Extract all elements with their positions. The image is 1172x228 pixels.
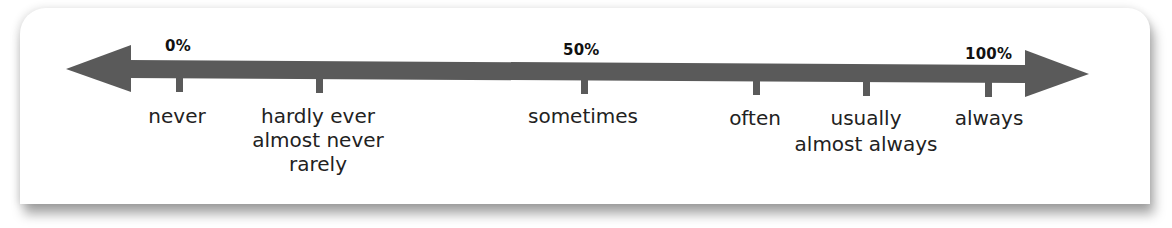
left-arrowhead-icon xyxy=(66,45,131,92)
label-sometimes: sometimes xyxy=(528,104,638,128)
label-line: almost never xyxy=(252,128,384,152)
label-line: almost always xyxy=(795,132,938,156)
label-hardly-ever: hardly ever almost never rarely xyxy=(252,104,384,176)
tick-often xyxy=(753,79,760,95)
tick-never xyxy=(176,76,183,92)
tick-always xyxy=(985,81,992,97)
right-arrowhead-icon xyxy=(1025,50,1089,97)
frequency-scale-figure: 0% 50% 100% never hardly ever almost nev… xyxy=(0,0,1172,228)
label-line: never xyxy=(148,104,205,128)
label-usually: usually almost always xyxy=(795,106,938,156)
tick-sometimes xyxy=(581,78,588,94)
label-often: often xyxy=(729,106,781,130)
label-never: never xyxy=(148,104,205,128)
label-line: often xyxy=(729,106,781,130)
arrow-shaft xyxy=(128,60,1028,83)
label-line: always xyxy=(955,106,1024,130)
label-line: rarely xyxy=(252,152,384,176)
label-line: hardly ever xyxy=(252,104,384,128)
percent-100: 100% xyxy=(965,45,1012,63)
tick-usually xyxy=(863,80,870,96)
label-always: always xyxy=(955,106,1024,130)
label-line: sometimes xyxy=(528,104,638,128)
label-line: usually xyxy=(795,106,938,130)
percent-50: 50% xyxy=(563,41,600,59)
tick-hardly-ever xyxy=(316,77,323,93)
percent-0: 0% xyxy=(165,37,191,55)
